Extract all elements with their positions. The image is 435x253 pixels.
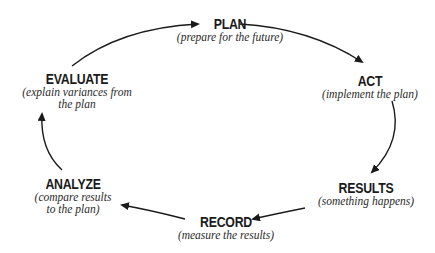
node-act: ACT (implement the plan) [322,73,418,100]
node-subtitle-line1: (explain variances from [22,86,131,98]
node-subtitle-line1: (compare results [35,191,112,203]
arrow-record-to-analyze [122,205,185,219]
node-subtitle: (implement the plan) [322,88,418,100]
node-title: ACT [331,73,410,88]
node-record: RECORD (measure the results) [178,214,274,241]
node-subtitle: (something happens) [318,195,414,207]
node-results: RESULTS (something happens) [318,180,414,207]
node-subtitle: (prepare for the future) [177,31,283,43]
node-title: RECORD [187,214,266,229]
node-subtitle-line2: the plan [22,98,131,110]
node-title: RESULTS [327,180,406,195]
node-subtitle-line2: to the plan) [35,203,112,215]
node-title: PLAN [186,16,273,31]
node-evaluate: EVALUATE (explain variances from the pla… [22,71,131,110]
node-title: EVALUATE [32,71,122,86]
arrow-act-to-results [372,101,395,172]
node-title: ANALYZE [42,176,105,191]
node-analyze: ANALYZE (compare results to the plan) [35,176,112,215]
node-subtitle: (measure the results) [178,229,274,241]
arrow-analyze-to-evaluate [42,114,62,170]
node-plan: PLAN (prepare for the future) [177,16,283,43]
